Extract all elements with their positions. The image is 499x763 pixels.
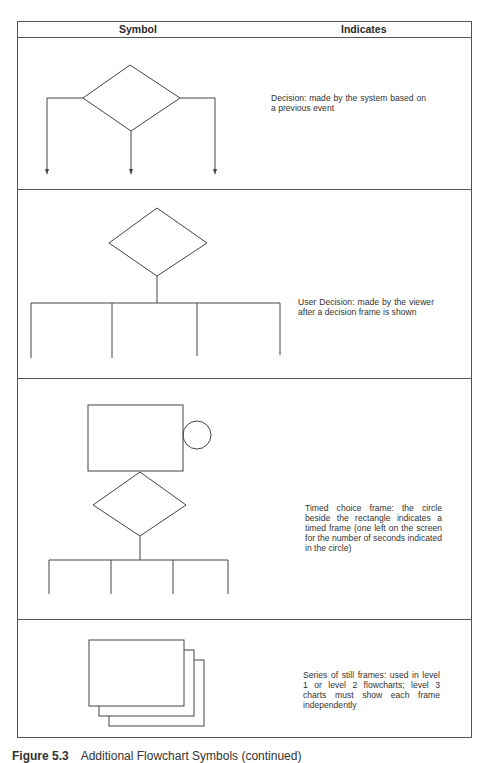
row-description: Series of still frames: used in level 1 … [303, 670, 440, 710]
stacked-frames-symbol-icon [18, 620, 278, 738]
timed-choice-symbol-icon [18, 379, 278, 620]
row-description: Timed choice frame: the circle beside th… [305, 503, 442, 553]
figure-label: Figure 5.3 [12, 749, 69, 763]
symbol-table: Symbol Indicates Decision: made by the s… [17, 21, 472, 738]
header-symbol: Symbol [119, 23, 157, 35]
user-decision-symbol-icon [18, 190, 278, 379]
table-row: User Decision: made by the viewer after … [18, 190, 471, 379]
row-description: User Decision: made by the viewer after … [298, 297, 434, 317]
table-row: Series of still frames: used in level 1 … [18, 620, 471, 738]
header-indicates: Indicates [341, 23, 387, 35]
table-row: Timed choice frame: the circle beside th… [18, 379, 471, 620]
table-row: Decision: made by the system based on a … [18, 37, 471, 190]
table-header: Symbol Indicates [18, 22, 471, 38]
figure-caption: Figure 5.3Additional Flowchart Symbols (… [12, 749, 301, 763]
decision-symbol-icon [18, 37, 278, 190]
figure-caption-text: Additional Flowchart Symbols (continued) [81, 749, 302, 763]
row-description: Decision: made by the system based on a … [271, 93, 426, 113]
